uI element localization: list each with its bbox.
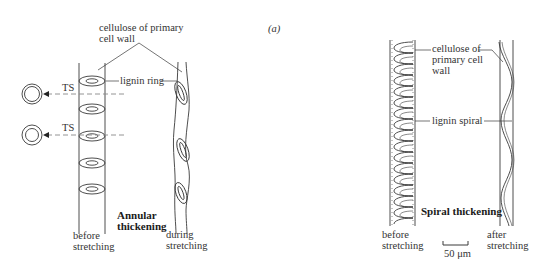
caption-line: stretching xyxy=(166,240,207,251)
caption-line: stretching xyxy=(382,240,423,251)
arrow-icon xyxy=(43,132,49,138)
label-lignin-spiral: lignin spiral xyxy=(432,115,482,126)
label-cellulose-primary-wall: cellulose of primary cell wall xyxy=(99,22,184,44)
label-line: cellulose of primary xyxy=(99,22,184,33)
caption-line: during xyxy=(166,229,207,240)
label-ts-1: TS xyxy=(62,82,74,93)
label-line: wall xyxy=(432,65,483,76)
label-line: cell wall xyxy=(99,33,184,44)
ts-cross-section-1 xyxy=(22,84,42,104)
label-cellulose-primary-wall-spiral: cellulose of primary cell wall xyxy=(432,43,483,76)
label-line: cellulose of xyxy=(432,43,483,54)
panel-label: (a) xyxy=(268,23,280,34)
scale-bar xyxy=(443,241,468,245)
annular-before-tube xyxy=(79,63,105,234)
caption-after-stretching: after stretching xyxy=(487,229,528,251)
spiral-after-tube xyxy=(499,40,514,226)
caption-during-stretching: during stretching xyxy=(166,229,207,251)
arrow-icon xyxy=(43,91,49,97)
ts-dashed-lines xyxy=(47,94,125,135)
label-ts-2: TS xyxy=(62,122,74,133)
label-lignin-ring: lignin ring xyxy=(120,75,164,86)
caption-line: after xyxy=(487,229,528,240)
caption-before-stretching-spiral: before stretching xyxy=(382,229,423,251)
caption-line: stretching xyxy=(487,240,528,251)
spiral-before-tube xyxy=(390,40,415,226)
caption-line: stretching xyxy=(73,241,114,252)
title-line: thickening xyxy=(117,221,167,232)
caption-line: before xyxy=(382,229,423,240)
ts-cross-section-2 xyxy=(22,125,42,145)
label-line: primary cell xyxy=(432,54,483,65)
title-spiral-thickening: Spiral thickening xyxy=(421,206,502,217)
caption-line: before xyxy=(73,230,114,241)
annular-during-tube xyxy=(172,62,192,234)
scale-bar-label: 50 μm xyxy=(444,248,471,259)
caption-before-stretching-annular: before stretching xyxy=(73,230,114,252)
title-annular-thickening: Annular thickening xyxy=(117,210,167,232)
